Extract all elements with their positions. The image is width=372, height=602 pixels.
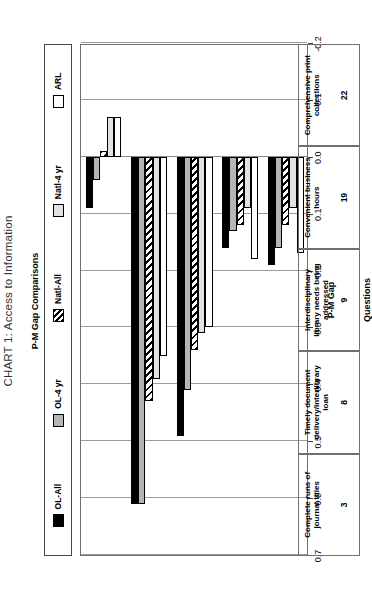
bar-ol-all [222, 157, 229, 248]
category-number: 9 [339, 298, 349, 303]
bar-ol-all [131, 157, 138, 504]
legend-item-arl: ARL [53, 73, 64, 108]
legend-item-label: Natl-4 yr [53, 165, 63, 199]
category-name: Convenient businesshours [303, 151, 321, 243]
plot-area [80, 44, 308, 556]
category-axis-label: Questions [362, 44, 372, 556]
category-number: 8 [339, 400, 349, 405]
bar-group [81, 45, 127, 555]
gridline [81, 42, 307, 43]
bar-natl-all [145, 157, 152, 402]
bar-arl [114, 117, 121, 157]
bar-ol-all [86, 157, 93, 208]
bar-ol-4-yr [93, 157, 100, 180]
legend-item-label: Natl-All [53, 274, 63, 304]
bar-natl-4-yr [198, 157, 205, 333]
bar-natl-4-yr [107, 117, 114, 157]
bar-natl-4-yr [244, 157, 251, 208]
bar-natl-all [100, 151, 107, 157]
bar-ol-4-yr [138, 157, 145, 504]
legend-item-label: OL-4 yr [53, 379, 63, 409]
legend-item-ol-4-yr: OL-4 yr [53, 379, 64, 427]
legend-swatch-icon [53, 204, 64, 217]
category-cell: Comprehensive printcollections22 [298, 44, 360, 146]
bar-ol-4-yr [229, 157, 236, 231]
legend-item-label: OL-All [53, 484, 63, 510]
legend-item-natl-all: Natl-All [53, 274, 64, 322]
bar-ol-4-yr [275, 157, 282, 248]
bar-arl [251, 157, 258, 259]
category-cell: Timely documentdelivery/interlibraryloan… [298, 351, 360, 453]
bar-natl-4-yr [289, 157, 296, 208]
bar-natl-4-yr [153, 157, 160, 379]
category-name: Comprehensive printcollections [303, 49, 321, 141]
category-name: Interdisciplinarylibrary needs beingaddr… [303, 254, 331, 346]
legend-title: P-M Gap Comparisons [30, 0, 40, 602]
category-cell: Interdisciplinarylibrary needs beingaddr… [298, 249, 360, 351]
chart-title: CHART 1: Access to Information [2, 0, 14, 602]
bar-group [172, 45, 218, 555]
bar-arl [205, 157, 212, 328]
category-number: 22 [339, 90, 349, 99]
bar-group [218, 45, 264, 555]
bar-natl-all [282, 157, 289, 225]
bar-natl-all [191, 157, 198, 350]
category-name: Timely documentdelivery/interlibraryloan [303, 356, 331, 448]
category-number: 19 [339, 193, 349, 202]
bar-ol-4-yr [184, 157, 191, 390]
bar-natl-all [237, 157, 244, 225]
category-name: Complete runs ofjournal titles [303, 459, 321, 551]
legend-swatch-icon [53, 309, 64, 322]
bar-arl [160, 157, 167, 356]
category-number: 3 [339, 502, 349, 507]
legend-swatch-icon [53, 414, 64, 427]
legend-item-label: ARL [53, 73, 63, 90]
bar-group [127, 45, 173, 555]
category-label-table: Complete runs ofjournal titles3Timely do… [298, 44, 360, 556]
legend-swatch-icon [53, 514, 64, 527]
category-cell: Convenient businesshours19 [298, 146, 360, 248]
legend-item-ol-all: OL-All [53, 484, 64, 528]
category-axis-block: Complete runs ofjournal titles3Timely do… [298, 0, 370, 602]
category-cell: Complete runs ofjournal titles3 [298, 454, 360, 556]
bar-ol-all [177, 157, 184, 436]
legend-swatch-icon [53, 95, 64, 108]
bar-ol-all [268, 157, 275, 265]
legend-item-natl-4-yr: Natl-4 yr [53, 165, 64, 217]
chart-legend: OL-AllOL-4 yrNatl-AllNatl-4 yrARL [44, 44, 72, 556]
